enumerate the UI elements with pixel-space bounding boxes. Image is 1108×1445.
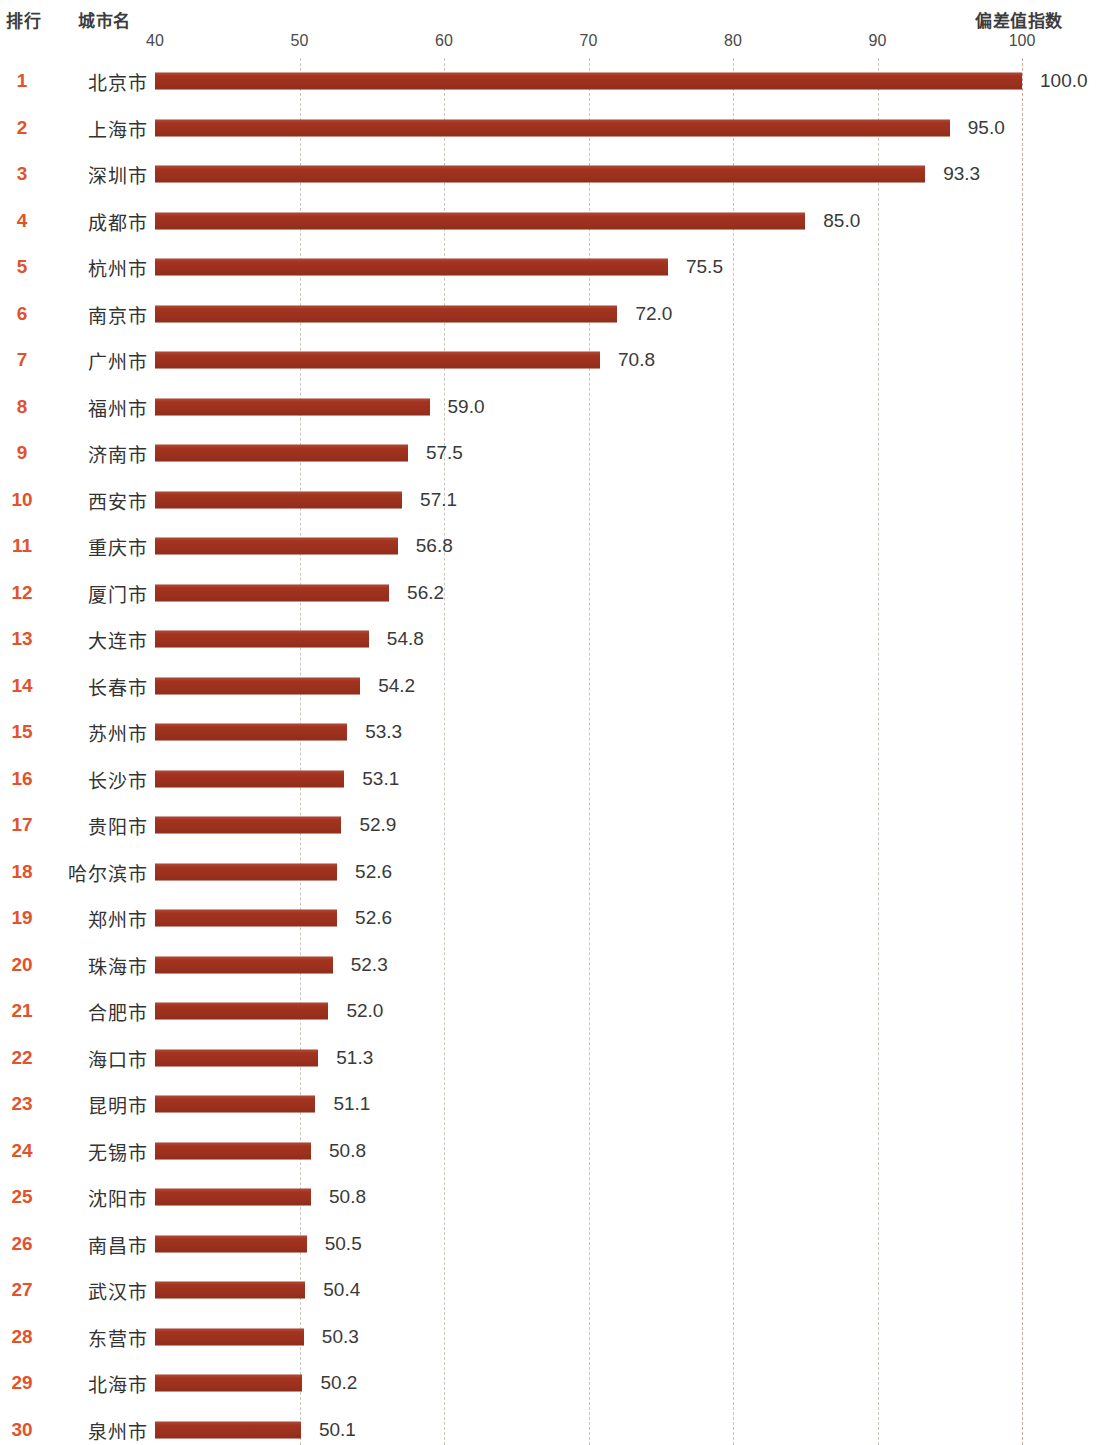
row-bar bbox=[155, 910, 337, 927]
row-bar bbox=[155, 166, 925, 183]
row-city-name: 贵阳市 bbox=[0, 812, 148, 839]
chart-row: 13大连市54.8 bbox=[0, 616, 1108, 663]
row-bar bbox=[155, 677, 360, 694]
chart-row: 25沈阳市50.8 bbox=[0, 1174, 1108, 1221]
row-value-label: 52.0 bbox=[346, 1000, 383, 1022]
chart-row: 18哈尔滨市52.6 bbox=[0, 849, 1108, 896]
row-value-label: 57.1 bbox=[420, 489, 457, 511]
chart-row: 2上海市95.0 bbox=[0, 105, 1108, 152]
chart-row: 7广州市70.8 bbox=[0, 337, 1108, 384]
row-value-label: 52.3 bbox=[351, 954, 388, 976]
x-axis-tick-label: 40 bbox=[146, 32, 164, 50]
x-axis-tick-label: 100 bbox=[1009, 32, 1036, 50]
row-value-label: 75.5 bbox=[686, 256, 723, 278]
row-value-label: 52.9 bbox=[359, 814, 396, 836]
x-axis-tick-label: 70 bbox=[580, 32, 598, 50]
row-value-label: 54.2 bbox=[378, 675, 415, 697]
row-city-name: 哈尔滨市 bbox=[0, 858, 148, 885]
row-bar bbox=[155, 1421, 301, 1438]
row-bar bbox=[155, 1096, 315, 1113]
row-city-name: 东营市 bbox=[0, 1323, 148, 1350]
row-bar bbox=[155, 445, 408, 462]
row-value-label: 56.2 bbox=[407, 582, 444, 604]
row-bar bbox=[155, 863, 337, 880]
column-header-bar: 排行 城市名 偏差值指数 bbox=[0, 0, 1108, 32]
chart-row: 5杭州市75.5 bbox=[0, 244, 1108, 291]
x-axis-tick-label: 50 bbox=[291, 32, 309, 50]
row-city-name: 深圳市 bbox=[0, 161, 148, 188]
row-bar bbox=[155, 73, 1022, 90]
row-value-label: 51.3 bbox=[336, 1047, 373, 1069]
row-city-name: 广州市 bbox=[0, 347, 148, 374]
x-axis-tick-labels: 405060708090100 bbox=[0, 32, 1108, 58]
row-city-name: 济南市 bbox=[0, 440, 148, 467]
row-city-name: 北京市 bbox=[0, 68, 148, 95]
row-bar bbox=[155, 1235, 307, 1252]
row-city-name: 无锡市 bbox=[0, 1137, 148, 1164]
row-value-label: 85.0 bbox=[823, 210, 860, 232]
row-bar bbox=[155, 956, 333, 973]
chart-row: 9济南市57.5 bbox=[0, 430, 1108, 477]
chart-row: 12厦门市56.2 bbox=[0, 570, 1108, 617]
row-bar bbox=[155, 1003, 328, 1020]
chart-row: 29北海市50.2 bbox=[0, 1360, 1108, 1407]
chart-row: 16长沙市53.1 bbox=[0, 756, 1108, 803]
row-city-name: 昆明市 bbox=[0, 1091, 148, 1118]
chart-row: 10西安市57.1 bbox=[0, 477, 1108, 524]
row-value-label: 93.3 bbox=[943, 163, 980, 185]
chart-row: 3深圳市93.3 bbox=[0, 151, 1108, 198]
chart-row: 22海口市51.3 bbox=[0, 1035, 1108, 1082]
row-city-name: 泉州市 bbox=[0, 1416, 148, 1443]
row-bar bbox=[155, 352, 600, 369]
row-city-name: 厦门市 bbox=[0, 579, 148, 606]
row-bar bbox=[155, 584, 389, 601]
row-bar bbox=[155, 817, 341, 834]
row-city-name: 珠海市 bbox=[0, 951, 148, 978]
row-value-label: 50.5 bbox=[325, 1233, 362, 1255]
x-axis-tick-label: 90 bbox=[869, 32, 887, 50]
row-value-label: 51.1 bbox=[333, 1093, 370, 1115]
row-city-name: 福州市 bbox=[0, 393, 148, 420]
row-city-name: 沈阳市 bbox=[0, 1184, 148, 1211]
row-city-name: 杭州市 bbox=[0, 254, 148, 281]
row-value-label: 53.1 bbox=[362, 768, 399, 790]
row-city-name: 大连市 bbox=[0, 626, 148, 653]
row-bar bbox=[155, 1282, 305, 1299]
chart-row: 30泉州市50.1 bbox=[0, 1407, 1108, 1445]
chart-row: 26南昌市50.5 bbox=[0, 1221, 1108, 1268]
row-city-name: 北海市 bbox=[0, 1370, 148, 1397]
row-value-label: 72.0 bbox=[635, 303, 672, 325]
row-city-name: 长沙市 bbox=[0, 765, 148, 792]
row-value-label: 50.2 bbox=[320, 1372, 357, 1394]
chart-row: 4成都市85.0 bbox=[0, 198, 1108, 245]
chart-row: 1北京市100.0 bbox=[0, 58, 1108, 105]
row-city-name: 武汉市 bbox=[0, 1277, 148, 1304]
chart-row: 17贵阳市52.9 bbox=[0, 802, 1108, 849]
row-bar bbox=[155, 1328, 304, 1345]
chart-row: 15苏州市53.3 bbox=[0, 709, 1108, 756]
row-city-name: 海口市 bbox=[0, 1044, 148, 1071]
chart-row: 27武汉市50.4 bbox=[0, 1267, 1108, 1314]
chart-row: 6南京市72.0 bbox=[0, 291, 1108, 338]
row-bar bbox=[155, 1189, 311, 1206]
row-value-label: 52.6 bbox=[355, 907, 392, 929]
row-value-label: 50.4 bbox=[323, 1279, 360, 1301]
row-bar bbox=[155, 1375, 302, 1392]
row-bar bbox=[155, 398, 430, 415]
chart-row: 19郑州市52.6 bbox=[0, 895, 1108, 942]
row-value-label: 50.3 bbox=[322, 1326, 359, 1348]
row-value-label: 50.1 bbox=[319, 1419, 356, 1441]
row-value-label: 56.8 bbox=[416, 535, 453, 557]
row-city-name: 上海市 bbox=[0, 114, 148, 141]
row-bar bbox=[155, 119, 950, 136]
column-header-city: 城市名 bbox=[78, 7, 131, 32]
chart-row: 20珠海市52.3 bbox=[0, 942, 1108, 989]
chart-row: 14长春市54.2 bbox=[0, 663, 1108, 710]
row-bar bbox=[155, 631, 369, 648]
chart-row: 23昆明市51.1 bbox=[0, 1081, 1108, 1128]
row-value-label: 50.8 bbox=[329, 1140, 366, 1162]
row-city-name: 成都市 bbox=[0, 207, 148, 234]
row-bar bbox=[155, 538, 398, 555]
row-value-label: 57.5 bbox=[426, 442, 463, 464]
row-city-name: 长春市 bbox=[0, 672, 148, 699]
